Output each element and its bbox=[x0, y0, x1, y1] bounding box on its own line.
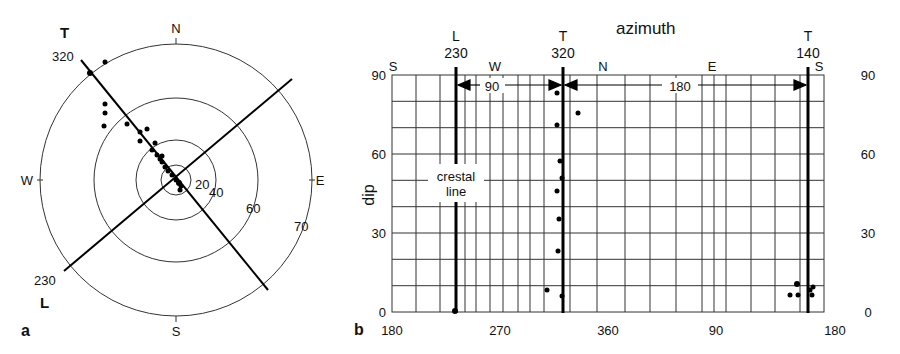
y-tick-right-30: 30 bbox=[861, 226, 875, 241]
compass-top-E: E bbox=[708, 59, 717, 74]
compass-top-S-left: S bbox=[389, 59, 398, 74]
y-tick-left-60: 60 bbox=[372, 147, 386, 162]
panel-b-points bbox=[452, 91, 816, 315]
y-tick-right-90: 90 bbox=[861, 68, 875, 83]
ring-label-70: 70 bbox=[294, 219, 308, 234]
span-label-180: 180 bbox=[669, 79, 691, 94]
compass-south: S bbox=[172, 324, 181, 339]
line-T1-azimuth: 320 bbox=[551, 45, 575, 61]
line-T1-letter: T bbox=[559, 28, 568, 44]
line-T2-letter: T bbox=[804, 28, 813, 44]
panel-b-label: b bbox=[354, 321, 364, 338]
trend-L-azimuth: 230 bbox=[34, 273, 56, 288]
line-L-letter: L bbox=[452, 28, 460, 44]
span-label-90: 90 bbox=[485, 79, 499, 94]
x-tick-270: 270 bbox=[489, 323, 511, 338]
ring-label-20: 20 bbox=[195, 177, 209, 192]
compass-top-N: N bbox=[598, 59, 607, 74]
y-tick-right-60: 60 bbox=[861, 147, 875, 162]
figure: N S W E 20 40 60 70 T 320 230 L a bbox=[0, 0, 900, 354]
crestal-line-label-1: crestal bbox=[437, 169, 475, 184]
crestal-line-label-2: line bbox=[446, 184, 466, 199]
compass-west: W bbox=[21, 173, 34, 188]
panel-b-grid-plot: 90 180 azimuth L 230 T 320 T bbox=[354, 19, 875, 338]
trend-T-azimuth: 320 bbox=[52, 49, 74, 64]
panel-a-polar-plot: N S W E 20 40 60 70 T 320 230 L a bbox=[21, 21, 325, 339]
ring-label-60: 60 bbox=[246, 201, 260, 216]
y-tick-left-90: 90 bbox=[372, 68, 386, 83]
compass-top-S-right: S bbox=[815, 59, 824, 74]
compass-top-W: W bbox=[489, 59, 502, 74]
x-tick-180-right: 180 bbox=[824, 323, 846, 338]
trend-L-letter: L bbox=[40, 294, 49, 311]
y-axis-label-dip: dip bbox=[360, 184, 377, 205]
y-tick-left-30: 30 bbox=[372, 226, 386, 241]
y-tick-right-0: 0 bbox=[864, 305, 871, 320]
line-L-azimuth: 230 bbox=[444, 45, 468, 61]
panel-a-label: a bbox=[21, 322, 30, 339]
trend-T-letter: T bbox=[60, 24, 69, 41]
y-tick-left-0: 0 bbox=[379, 305, 386, 320]
compass-east: E bbox=[316, 173, 325, 188]
compass-north: N bbox=[171, 21, 180, 36]
x-tick-360: 360 bbox=[597, 323, 619, 338]
chart-title-azimuth: azimuth bbox=[616, 19, 676, 38]
x-tick-90: 90 bbox=[709, 323, 723, 338]
x-tick-180-left: 180 bbox=[381, 323, 403, 338]
ring-label-40: 40 bbox=[209, 185, 223, 200]
